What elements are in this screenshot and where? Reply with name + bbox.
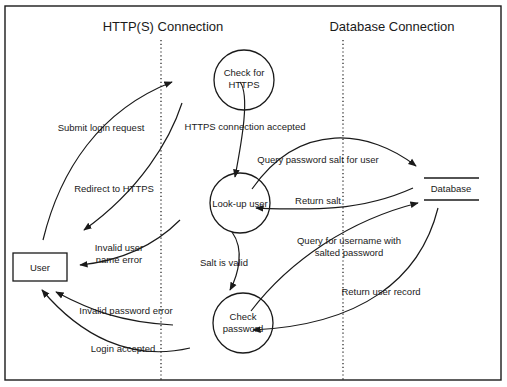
flow-invalid-user-label-1: Invalid user bbox=[95, 242, 144, 253]
node-check-password-label-1: Check bbox=[230, 311, 257, 322]
node-check-password: Check password bbox=[213, 293, 273, 353]
lane-title-database: Database Connection bbox=[329, 19, 454, 34]
flow-query-username-label-1: Query for username with bbox=[297, 235, 401, 246]
flow-query-salt-label: Query password salt for user bbox=[257, 154, 378, 165]
node-lookup-user-label: Look-up user bbox=[212, 198, 267, 209]
flow-redirect-https-label: Redirect to HTTPS bbox=[74, 183, 154, 194]
flow-salt-valid-label: Salt is valid bbox=[200, 257, 248, 268]
flow-submit-login-label: Submit login request bbox=[58, 122, 145, 133]
flow-invalid-password-label: Invalid password error bbox=[79, 305, 172, 316]
flow-invalid-user-label-2: name error bbox=[96, 254, 142, 265]
node-check-password-label-2: password bbox=[223, 323, 264, 334]
flow-return-record-label: Return user record bbox=[341, 286, 420, 297]
node-user: User bbox=[13, 253, 67, 281]
node-check-https-label-2: HTTPS bbox=[228, 79, 259, 90]
node-user-label: User bbox=[30, 262, 50, 273]
flow-login-accepted-label: Login accepted bbox=[91, 343, 155, 354]
node-database-label: Database bbox=[431, 183, 472, 194]
node-lookup-user: Look-up user bbox=[210, 173, 270, 233]
node-check-https-label-1: Check for bbox=[224, 67, 265, 78]
node-check-https: Check for HTTPS bbox=[214, 50, 274, 110]
flow-https-accepted-label: HTTPS connection accepted bbox=[185, 121, 306, 132]
flow-query-username-label-2: salted password bbox=[315, 247, 384, 258]
data-flow-diagram: HTTP(S) Connection Database Connection U… bbox=[0, 0, 507, 387]
lane-title-http: HTTP(S) Connection bbox=[103, 19, 224, 34]
flow-return-salt-label: Return salt bbox=[295, 195, 341, 206]
